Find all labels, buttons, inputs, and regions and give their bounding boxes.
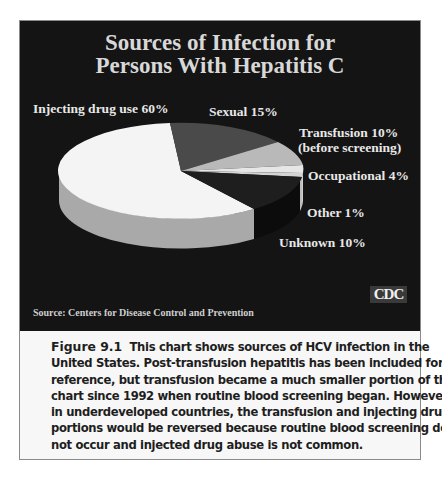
- caption-line-4: chart since 1992 when routine blood scre…: [51, 388, 401, 404]
- pie-side-other: [300, 176, 302, 211]
- caption-line-1: Figure 9.1 This chart shows sources of H…: [51, 339, 401, 355]
- label-transfusion: Transfusion 10%: [299, 125, 398, 140]
- caption-line-7: not occur and injected drug abuse is not…: [51, 437, 401, 453]
- caption-line-5: in underdeveloped countries, the transfu…: [51, 404, 401, 420]
- label-transfusion-note: (before screening): [298, 140, 401, 155]
- caption-line-6: portions would be reversed because routi…: [51, 420, 401, 436]
- cdc-logo: CDC: [370, 286, 407, 303]
- label-sexual: Sexual 15%: [209, 104, 278, 119]
- caption-line-3: reference, but transfusion became a much…: [51, 372, 401, 388]
- pie-top: [58, 123, 303, 219]
- label-occupational: Occupational 4%: [308, 168, 409, 183]
- label-unknown: Unknown 10%: [279, 235, 366, 250]
- caption-text-1: This chart shows sources of HCV infectio…: [130, 340, 430, 354]
- label-other: Other 1%: [307, 205, 365, 220]
- chart-panel: Sources of Infection for Persons With He…: [20, 21, 420, 331]
- caption-line-2: United States. Post-transfusion hepatiti…: [51, 355, 401, 371]
- chart-source: Source: Centers for Disease Control and …: [33, 307, 254, 318]
- figure-frame: Sources of Infection for Persons With He…: [19, 20, 421, 460]
- label-injecting: Injecting drug use 60%: [33, 101, 168, 116]
- figure-caption: Figure 9.1 This chart shows sources of H…: [51, 339, 401, 453]
- figure-label: Figure 9.1: [51, 339, 122, 354]
